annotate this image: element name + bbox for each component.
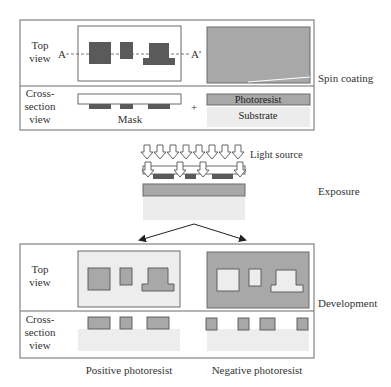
development-label: Development <box>318 297 377 309</box>
mask-chrome-2 <box>120 104 133 109</box>
positive-feature-small <box>120 268 132 285</box>
photolithography-diagram: Top view Cross- section view A A' Spin c… <box>0 0 391 387</box>
arrow-down-icon <box>193 145 205 159</box>
coated-wafer-top-view <box>207 27 310 83</box>
top-view-label-1: Top <box>32 263 49 275</box>
exposure-label: Exposure <box>318 185 360 197</box>
cross-section-label-1: Cross- <box>26 87 55 99</box>
negative-resist-block-4 <box>297 318 308 330</box>
plus-sign: + <box>191 101 197 113</box>
negative-resist-block-2 <box>238 318 249 330</box>
light-source-label: Light source <box>250 149 303 160</box>
mask-plate-section <box>78 94 181 104</box>
cross-section-label-3: view <box>29 339 50 351</box>
arrow-down-icon <box>219 145 231 159</box>
negative-resist-block-1 <box>206 318 217 330</box>
substrate-label: Substrate <box>238 110 277 121</box>
cross-section-label-3: view <box>29 113 50 125</box>
exposure-chrome-2 <box>185 174 196 179</box>
mask-chrome-3 <box>148 104 170 109</box>
marker-a-prime: A' <box>191 48 201 60</box>
top-view-label-2: view <box>29 276 50 288</box>
branch-arrow-positive <box>140 224 194 240</box>
exposure-chrome-1 <box>153 174 174 179</box>
mask-chrome-1 <box>89 104 111 109</box>
branch-arrow-negative <box>194 224 245 240</box>
arrow-down-icon <box>154 145 166 159</box>
mask-feature-small <box>120 42 133 59</box>
negative-opening-square <box>217 269 239 291</box>
light-arrows <box>141 145 244 159</box>
photoresist-label: Photoresist <box>235 94 282 105</box>
mask-feature-square <box>89 42 111 64</box>
exposure-chrome-3 <box>212 174 233 179</box>
exposure-mask-plate <box>143 166 245 174</box>
negative-substrate <box>207 329 309 351</box>
negative-photoresist-label: Negative photoresist <box>212 364 303 376</box>
mask-label: Mask <box>118 113 143 125</box>
cross-section-label-2: section <box>24 100 56 112</box>
cross-section-label-1: Cross- <box>26 313 55 325</box>
arrow-down-icon <box>167 145 179 159</box>
positive-resist-block-3 <box>147 317 169 329</box>
marker-a: A <box>58 48 66 60</box>
exposure-stage: Light source Exposure <box>140 145 360 240</box>
negative-opening-small <box>249 269 261 286</box>
positive-resist-block-1 <box>88 317 110 329</box>
positive-photoresist-label: Positive photoresist <box>86 364 172 376</box>
arrow-down-icon <box>141 145 153 159</box>
negative-resist-block-3 <box>260 318 275 330</box>
arrow-down-icon <box>232 145 244 159</box>
arrow-down-icon <box>206 145 218 159</box>
exposure-substrate <box>143 197 245 220</box>
cross-section-label-2: section <box>24 326 56 338</box>
arrow-down-icon <box>180 145 192 159</box>
positive-feature-square <box>88 268 110 290</box>
spin-coating-label: Spin coating <box>318 72 374 84</box>
spin-coating-panel: Top view Cross- section view A A' Spin c… <box>20 20 374 130</box>
positive-resist-block-2 <box>120 317 132 329</box>
exposure-photoresist <box>143 184 245 196</box>
top-view-label-1: Top <box>32 39 49 51</box>
top-view-label-2: view <box>29 52 50 64</box>
development-panel: Top view Cross- section view Development… <box>20 244 377 376</box>
positive-substrate <box>78 329 180 351</box>
